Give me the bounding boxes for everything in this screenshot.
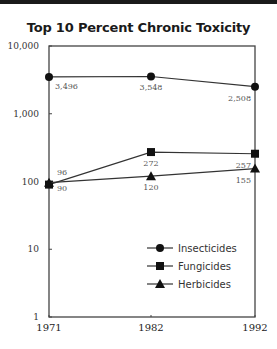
circle-marker [147, 72, 155, 80]
square-marker [251, 150, 259, 158]
legend-circle-icon [156, 244, 164, 252]
circle-marker [45, 73, 53, 81]
triangle-marker [250, 164, 260, 173]
x-tick-label: 1982 [138, 322, 163, 333]
data-label: 2,508 [228, 94, 251, 103]
data-label: 3,548 [140, 83, 163, 92]
y-tick-label: 1,000 [13, 109, 39, 119]
data-label: 155 [236, 176, 251, 185]
legend-label-fungicides: Fungicides [178, 261, 231, 272]
legend-square-icon [156, 262, 164, 270]
data-label: 96 [57, 168, 67, 177]
legend-label-insecticides: Insecticides [178, 243, 237, 254]
data-label: 272 [143, 159, 158, 168]
y-tick-label: 1 [33, 312, 39, 322]
chart-plot: 1101001,00010,0001971198219923,4963,5482… [0, 0, 277, 349]
data-label: 257 [236, 161, 251, 170]
legend-label-herbicides: Herbicides [178, 279, 231, 290]
data-label: 120 [143, 183, 158, 192]
y-tick-label: 10 [28, 244, 40, 254]
circle-marker [251, 83, 259, 91]
x-tick-label: 1992 [242, 322, 267, 333]
data-label: 90 [57, 184, 67, 193]
data-label: 3,496 [55, 82, 78, 91]
y-tick-label: 10,000 [8, 41, 40, 51]
x-tick-label: 1971 [36, 322, 61, 333]
square-marker [147, 148, 155, 156]
y-tick-label: 100 [22, 177, 39, 187]
